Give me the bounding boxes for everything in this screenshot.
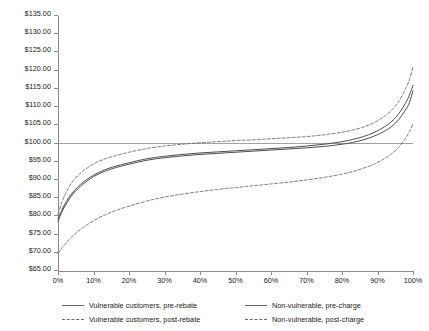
x-tick-mark <box>236 271 237 275</box>
chart-container: $65.00$70.00$75.00$80.00$85.00$90.00$95.… <box>0 0 429 331</box>
legend-item[interactable]: Non-vulnerable, post-charge <box>245 312 422 326</box>
series-line-non_vulnerable_post_charge <box>58 123 413 253</box>
y-tick-label: $80.00 <box>29 210 51 218</box>
y-tick-label: $85.00 <box>29 192 51 200</box>
y-tick-label: $65.00 <box>29 265 51 273</box>
legend-item-label: Vulnerable customers, post-rebate <box>89 315 200 324</box>
x-tick-label: 80% <box>335 277 350 285</box>
y-tick-label: $70.00 <box>29 247 51 255</box>
legend-item[interactable]: Vulnerable customers, post-rebate <box>62 312 239 326</box>
x-tick-label: 70% <box>299 277 314 285</box>
y-tick-label: $130.00 <box>25 28 51 36</box>
y-tick-label: $95.00 <box>29 156 51 164</box>
x-tick-mark <box>271 271 272 275</box>
x-tick-mark <box>200 271 201 275</box>
y-tick-label: $125.00 <box>25 46 51 54</box>
y-tick-label: $100.00 <box>25 138 51 146</box>
x-tick-label: 0% <box>53 277 64 285</box>
legend-item-label: Vulnerable customers, pre-rebate <box>89 301 197 310</box>
legend-line-sample-dashed <box>62 319 84 320</box>
y-tick-label: $90.00 <box>29 174 51 182</box>
series-line-non_vulnerable_pre_charge <box>58 91 413 222</box>
legend-line-sample-dashed <box>245 319 267 320</box>
legend-item-label: Non-vulnerable, pre-charge <box>272 301 361 310</box>
x-tick-mark <box>129 271 130 275</box>
x-tick-mark <box>413 271 414 275</box>
y-tick-label: $75.00 <box>29 229 51 237</box>
x-tick-label: 100% <box>404 277 423 285</box>
y-tick-label: $110.00 <box>25 101 51 109</box>
x-tick-mark <box>342 271 343 275</box>
y-tick-label: $135.00 <box>25 10 51 18</box>
legend-item[interactable]: Non-vulnerable, pre-charge <box>245 298 422 312</box>
y-tick-label: $115.00 <box>25 83 51 91</box>
x-tick-label: 50% <box>228 277 243 285</box>
legend-item-label: Non-vulnerable, post-charge <box>272 315 364 324</box>
legend-line-sample-solid <box>62 305 84 306</box>
y-tick-label: $120.00 <box>25 65 51 73</box>
x-tick-mark <box>58 271 59 275</box>
x-tick-label: 60% <box>264 277 279 285</box>
plot-curves <box>58 16 413 271</box>
x-tick-label: 40% <box>193 277 208 285</box>
x-tick-label: 30% <box>157 277 172 285</box>
y-tick-label: $105.00 <box>25 119 51 127</box>
x-tick-mark <box>165 271 166 275</box>
legend-line-sample-solid <box>245 305 267 306</box>
x-tick-label: 10% <box>86 277 101 285</box>
x-tick-label: 20% <box>122 277 137 285</box>
legend-item[interactable]: Vulnerable customers, pre-rebate <box>62 298 239 312</box>
x-tick-mark <box>378 271 379 275</box>
x-tick-mark <box>94 271 95 275</box>
x-tick-label: 90% <box>370 277 385 285</box>
x-tick-mark <box>307 271 308 275</box>
chart-legend: Vulnerable customers, pre-rebateNon-vuln… <box>62 298 422 326</box>
